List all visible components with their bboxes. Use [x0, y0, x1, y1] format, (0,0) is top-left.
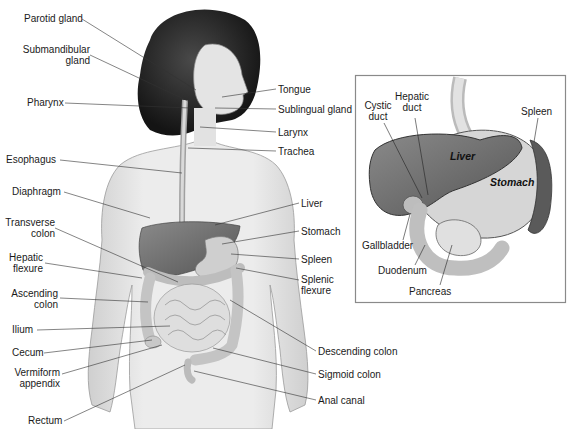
label-trachea: Trachea — [278, 146, 314, 157]
label-anal-canal: Anal canal — [318, 395, 365, 406]
label-splenic-flexure: Splenic flexure — [301, 274, 334, 296]
label-parotid-gland: Parotid gland — [24, 13, 83, 24]
label-transverse-colon: Transverse colon — [4, 217, 55, 239]
label-sigmoid-colon: Sigmoid colon — [318, 369, 381, 380]
neck — [194, 108, 216, 146]
label-rectum: Rectum — [28, 415, 62, 426]
label-line: duct — [392, 102, 432, 113]
ascending-colon-organ — [146, 278, 151, 340]
label-liver: Liver — [301, 198, 323, 209]
label-line: Splenic — [301, 274, 334, 285]
label-ilium: Ilium — [12, 324, 33, 335]
label-spleen: Spleen — [301, 254, 332, 265]
inset-organ-liver-text: Liver — [450, 151, 475, 162]
inset-label-duodenum: Duodenum — [378, 265, 427, 276]
inset-label-pancreas: Pancreas — [409, 286, 451, 297]
label-hepatic-flexure: Hepatic flexure — [5, 252, 43, 274]
digestive-system-diagram: Parotid gland Submandibular gland Pharyn… — [0, 0, 568, 429]
label-line: colon — [4, 228, 55, 239]
label-line: gland — [22, 55, 90, 66]
label-vermiform-appendix: Vermiform appendix — [10, 367, 60, 389]
label-line: Hepatic — [392, 91, 432, 102]
label-tongue: Tongue — [278, 84, 311, 95]
label-line: Submandibular — [22, 44, 90, 55]
label-line: appendix — [10, 378, 60, 389]
inset-label-gallbladder: Gallbladder — [362, 240, 413, 251]
label-submandibular-gland: Submandibular gland — [22, 44, 90, 66]
label-line: Transverse — [4, 217, 55, 228]
inset-label-hepatic-duct: Hepatic duct — [392, 91, 432, 113]
label-line: Vermiform — [10, 367, 60, 378]
label-sublingual-gland: Sublingual gland — [278, 104, 352, 115]
inset-label-cystic-duct: Cystic duct — [360, 100, 396, 122]
label-larynx: Larynx — [278, 127, 308, 138]
label-ascending-colon: Ascending colon — [8, 288, 58, 310]
inset-organ-stomach-text: Stomach — [490, 177, 534, 188]
label-line: Hepatic — [5, 252, 43, 263]
label-descending-colon: Descending colon — [318, 346, 398, 357]
label-diaphragm: Diaphragm — [12, 186, 61, 197]
small-intestine — [154, 284, 230, 352]
label-line: flexure — [301, 285, 334, 296]
label-esophagus: Esophagus — [6, 154, 56, 165]
label-line: flexure — [5, 263, 43, 274]
label-pharynx: Pharynx — [27, 97, 64, 108]
label-cecum: Cecum — [12, 347, 44, 358]
label-line: Cystic — [360, 100, 396, 111]
label-line: colon — [8, 299, 58, 310]
label-stomach: Stomach — [301, 226, 340, 237]
label-line: Ascending — [8, 288, 58, 299]
inset-label-spleen: Spleen — [521, 106, 552, 117]
label-line: duct — [360, 111, 396, 122]
